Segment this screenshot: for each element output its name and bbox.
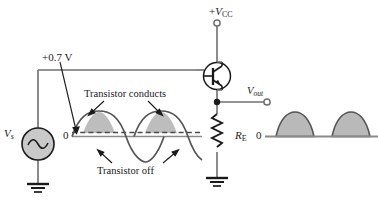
output-voltage-label: Vout (247, 86, 263, 97)
emitter-node-dot (214, 99, 220, 105)
circuit-canvas (0, 0, 378, 208)
transistor-off-label: Transistor off (97, 166, 154, 177)
npn-transistor-symbol (204, 62, 231, 90)
source-voltage-label: Vs (4, 128, 14, 141)
circuit-diagram-figure: +VCC +0.7 V Transistor conducts Transist… (0, 0, 378, 208)
emitter-resistor-label: RE (235, 130, 247, 143)
annotation-arrows (60, 62, 179, 163)
bias-voltage-label: +0.7 V (42, 52, 72, 63)
conduction-shade-1 (83, 112, 115, 133)
output-zero-label: 0 (256, 130, 262, 141)
transistor-conducts-label: Transistor conducts (84, 89, 166, 100)
emitter-resistor-symbol (212, 114, 222, 147)
output-terminal-circle (264, 99, 270, 105)
ground-symbol-source (27, 184, 49, 192)
input-waveform-group (72, 111, 202, 162)
output-hump-1 (276, 112, 314, 137)
output-hump-2 (332, 112, 370, 137)
supply-voltage-label: +VCC (209, 6, 233, 19)
arrow-bias-line (60, 62, 76, 130)
supply-terminal-circle (214, 20, 220, 26)
ac-source-symbol (22, 128, 54, 160)
input-zero-label: 0 (63, 130, 69, 141)
output-waveform-group (265, 112, 378, 137)
ground-symbol-emitter (206, 178, 228, 186)
